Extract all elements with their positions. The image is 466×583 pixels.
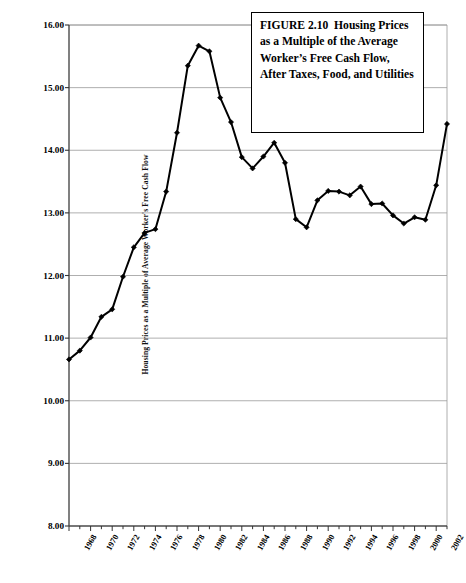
x-axis-tick-label: 1992 [342, 533, 358, 552]
x-axis-tick-label: 1974 [147, 533, 163, 552]
x-axis-tick-label: 1976 [169, 533, 185, 552]
x-axis-tick-label: 1998 [406, 533, 422, 552]
x-axis-tick-label: 1982 [234, 533, 250, 552]
x-axis-tick-label: 1988 [298, 533, 314, 552]
x-axis-tick-label: 1978 [190, 533, 206, 552]
x-axis-tick-label: 1996 [385, 533, 401, 552]
figure-caption-text: FIGURE 2.10 Housing Prices as a Multiple… [260, 18, 417, 84]
x-axis-tick-label: 1970 [104, 533, 120, 552]
figure-caption-box: FIGURE 2.10 Housing Prices as a Multiple… [251, 12, 424, 133]
x-axis-tick-label: 1990 [320, 533, 336, 552]
x-axis-tick-label: 1986 [277, 533, 293, 552]
x-axis-tick-label: 1980 [212, 533, 228, 552]
x-axis-tick-label: 1984 [255, 533, 271, 552]
x-axis-tick-label: 2000 [428, 533, 444, 552]
x-axis-tick-label: 2002 [450, 533, 466, 552]
x-axis-tick-label: 1968 [82, 533, 98, 552]
x-axis-tick-label: 1994 [363, 533, 379, 552]
x-axis-tick-label: 1972 [126, 533, 142, 552]
